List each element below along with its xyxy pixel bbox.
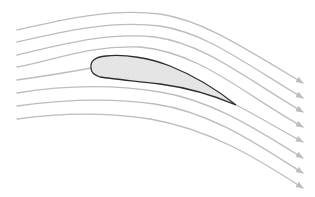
diagram-canvas	[0, 0, 315, 197]
streamline-5-stagnation-upstream	[17, 68, 91, 80]
streamline-6	[17, 87, 303, 158]
airfoil-shape	[91, 55, 236, 105]
streamline-8	[17, 114, 303, 188]
airfoil-streamline-diagram	[0, 0, 315, 197]
streamline-2	[17, 24, 303, 98]
